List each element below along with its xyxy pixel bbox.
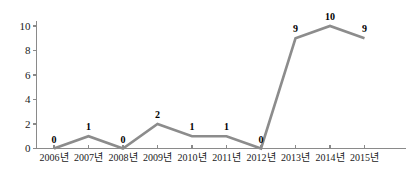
data-point-label: 9 (350, 24, 380, 34)
data-point-label: 0 (108, 135, 138, 145)
data-point-label: 1 (177, 122, 207, 132)
data-point-label: 9 (281, 24, 311, 34)
data-point-label: 2 (143, 110, 173, 120)
y-tick-label: 8 (0, 45, 31, 56)
x-tick-label: 2015년 (345, 153, 385, 163)
data-point-label: 0 (246, 135, 276, 145)
data-point-label: 1 (212, 122, 242, 132)
data-point-label: 0 (39, 135, 69, 145)
y-tick-label: 4 (0, 94, 31, 105)
data-point-label: 1 (74, 122, 104, 132)
y-tick-label: 0 (0, 143, 31, 154)
y-tick-label: 6 (0, 70, 31, 81)
line-chart: 0246810 2006년2007년2008년2009년2010년2011년20… (0, 0, 413, 178)
data-point-label: 10 (315, 12, 345, 22)
y-tick-label: 2 (0, 119, 31, 130)
y-tick-label: 10 (0, 21, 31, 32)
